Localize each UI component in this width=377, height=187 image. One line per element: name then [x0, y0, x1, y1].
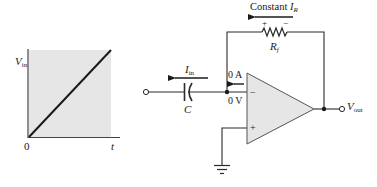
output-terminal [339, 106, 344, 111]
resistor-minus-sign: − [283, 18, 288, 28]
op-amp [247, 73, 314, 144]
output-node-dot [322, 107, 326, 111]
feedback-resistor [262, 28, 287, 36]
x-axis-label: t [111, 140, 115, 152]
input-ramp-graph: Vin 0 t [15, 49, 120, 152]
feedback-current-label: Constant IR [250, 1, 298, 14]
noninverting-input-sign: + [250, 122, 256, 133]
zero-current-label: 0 A [228, 69, 243, 80]
noninverting-wire [222, 128, 247, 165]
figure-canvas: Vin 0 t C Iin 0 A [0, 0, 377, 187]
resistor-plus-sign: + [262, 18, 267, 28]
integrator-circuit: C Iin 0 A 0 V + − Rf Constant IR [143, 1, 362, 174]
origin-label: 0 [24, 140, 30, 152]
virtual-ground-label: 0 V [228, 95, 243, 106]
inverting-input-sign: − [250, 87, 256, 98]
capacitor-label: C [184, 103, 192, 115]
input-current-label: Iin [184, 63, 195, 77]
input-terminal [143, 89, 148, 94]
integrator-figure: Vin 0 t C Iin 0 A [0, 0, 377, 187]
output-label: Vout [347, 100, 363, 114]
ground-icon [214, 166, 230, 174]
y-axis-label: Vin [15, 55, 28, 69]
resistor-label: Rf [269, 40, 280, 54]
